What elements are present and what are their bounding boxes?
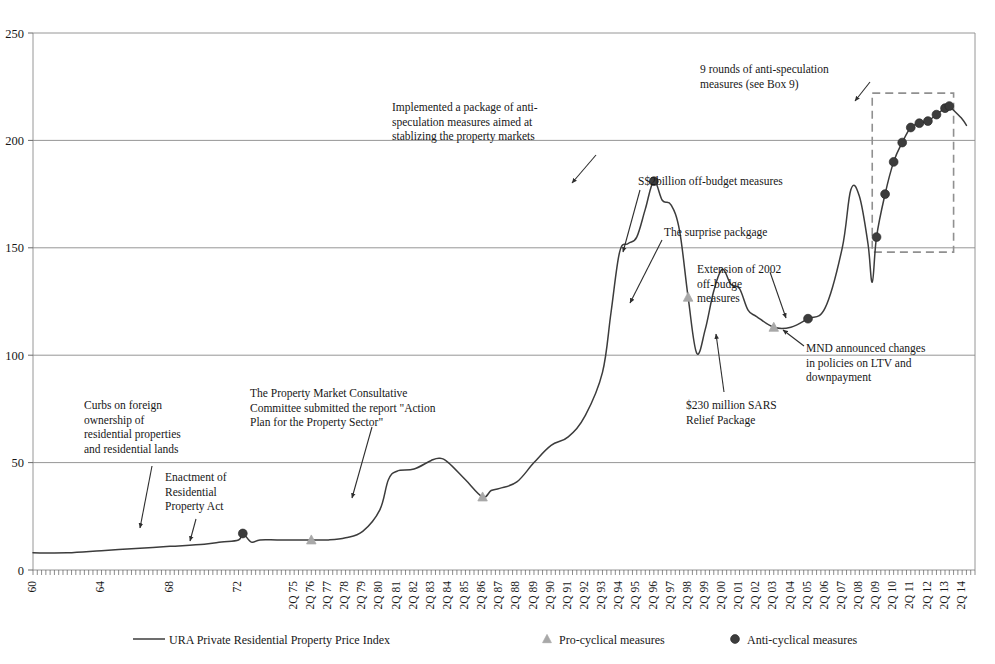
- anti-cyclical-marker: [238, 529, 247, 538]
- pro-cyclical-marker: [683, 292, 693, 301]
- annotation-enactment-residential-property-act: Enactment of Residential Property Act: [165, 470, 275, 514]
- x-axis-tick-label: 2Q 93: [595, 581, 607, 610]
- legend-anti-cyclical-symbol: [731, 635, 740, 644]
- x-axis-tick-label: 2Q 99: [698, 581, 710, 610]
- legend-pro-cyclical-symbol: [543, 634, 552, 642]
- annotation-extension-of-2002-off-budget-measures: Extension of 2002 off-budge measures: [697, 262, 817, 306]
- x-axis-tick-label: 2Q 98: [681, 581, 693, 610]
- anti-cyclical-marker: [889, 157, 898, 166]
- x-axis-tick-label: 2Q 79: [355, 581, 367, 610]
- annotation-9-rounds-anti-speculation-measures: 9 rounds of anti-speculation measures (s…: [700, 62, 900, 91]
- x-axis-tick-label: 68: [163, 581, 175, 593]
- x-axis-tick-label: 2Q 13: [938, 581, 950, 610]
- x-axis-tick-label: 2Q 81: [390, 581, 402, 610]
- anti-cyclical-marker: [804, 314, 813, 323]
- highlight-box-9-rounds: [872, 93, 953, 252]
- chart-legend: URA Private Residential Property Price I…: [133, 633, 858, 647]
- legend-pro-cyclical-label: Pro-cyclical measures: [559, 633, 665, 647]
- x-axis-tick-label: 2Q 14: [955, 581, 967, 610]
- x-axis-tick-label: 2Q 96: [647, 581, 659, 610]
- annotation-leader-line: [630, 240, 662, 303]
- y-axis-tick-label: 250: [5, 27, 24, 41]
- anti-cyclical-marker: [915, 119, 924, 128]
- annotation-leader-line: [783, 330, 804, 346]
- annotation-leader-line: [190, 519, 196, 541]
- x-axis-tick-label: 2Q 89: [527, 581, 539, 610]
- anti-cyclical-marker: [932, 110, 941, 119]
- x-axis-tick-label: 2Q 05: [801, 581, 813, 610]
- x-axis-tick-label: 2Q 87: [492, 581, 504, 610]
- x-axis-tick-label: 2Q 80: [372, 581, 384, 610]
- legend-anti-cyclical-label: Anti-cyclical measures: [747, 633, 858, 647]
- x-axis-tick-label: 2Q 91: [561, 581, 573, 610]
- anti-cyclical-marker: [881, 190, 890, 199]
- anti-cyclical-marker: [898, 138, 907, 147]
- annotation-mnd-announced-changes-ltv-downpayment: MND announced changes in policies on LTV…: [806, 341, 995, 385]
- x-axis-tick-label: 2Q 84: [441, 581, 453, 610]
- annotation-curbs-on-foreign-ownership: Curbs on foreign ownership of residentia…: [84, 398, 234, 457]
- x-axis-tick-label: 2Q 09: [869, 581, 881, 610]
- x-axis-tick-label: 2Q 90: [544, 581, 556, 610]
- x-axis-tick-label: 2Q 86: [475, 581, 487, 610]
- y-axis-tick-label: 200: [5, 134, 24, 148]
- x-axis-tick-label: 2Q 11: [903, 581, 915, 609]
- x-axis-tick-label: 60: [26, 581, 38, 593]
- anti-cyclical-marker: [872, 233, 881, 242]
- y-axis-tick-label: 100: [5, 349, 24, 363]
- annotation-ss2billion-off-budget-measures: S$2billion off-budget measures: [638, 174, 868, 189]
- x-axis-tick-label: 2Q 95: [629, 581, 641, 610]
- x-axis-tick-label: 2Q 75: [287, 581, 299, 610]
- x-axis-tick-label: 2Q 76: [304, 581, 316, 610]
- legend-line-price-index-label: URA Private Residential Property Price I…: [169, 633, 390, 647]
- x-axis-tick-label: 64: [94, 581, 106, 593]
- x-axis: 606468722Q 752Q 762Q 772Q 782Q 792Q 802Q…: [26, 570, 975, 609]
- x-axis-tick-label: 2Q 07: [835, 581, 847, 610]
- x-axis-tick-label: 2Q 83: [424, 581, 436, 610]
- annotation-leader-line: [140, 466, 152, 528]
- y-axis-tick-label: 150: [5, 241, 24, 255]
- x-axis-tick-label: 2Q 85: [458, 581, 470, 610]
- anti-cyclical-marker: [906, 123, 915, 132]
- x-axis-tick-label: 72: [231, 581, 243, 593]
- x-axis-tick-label: 2Q 02: [749, 581, 761, 610]
- chart-container: 050100150200250 606468722Q 752Q 762Q 772…: [0, 0, 995, 664]
- annotation-230-million-sars-relief-package: $230 million SARS Relief Package: [686, 398, 826, 427]
- annotation-implemented-anti-speculation-package: Implemented a package of anti- speculati…: [392, 100, 610, 144]
- annotation-property-market-consultative-committee: The Property Market Consultative Committ…: [250, 386, 500, 430]
- x-axis-tick-label: 2Q 82: [407, 581, 419, 610]
- annotation-leader-line: [572, 155, 596, 183]
- anti-cyclical-marker: [945, 102, 954, 111]
- y-axis-tick-label: 50: [12, 456, 25, 470]
- y-axis-tick-label: 0: [18, 564, 24, 578]
- x-axis-tick-label: 2Q 94: [612, 581, 624, 610]
- x-axis-tick-label: 2Q 88: [509, 581, 521, 610]
- x-axis-tick-label: 2Q 12: [921, 581, 933, 610]
- x-axis-tick-label: 2Q 08: [852, 581, 864, 610]
- x-axis-tick-label: 2Q 92: [578, 581, 590, 610]
- pro-cyclical-marker: [769, 322, 779, 331]
- annotation-leader-line: [716, 334, 724, 392]
- y-axis: 050100150200250: [5, 27, 33, 578]
- x-axis-tick-label: 2Q 10: [886, 581, 898, 610]
- x-axis-tick-label: 2Q 00: [715, 581, 727, 610]
- x-axis-tick-label: 2Q 03: [766, 581, 778, 610]
- x-axis-tick-label: 2Q 77: [321, 581, 333, 610]
- annotation-the-surprise-package: The surprise packgage: [664, 225, 844, 240]
- x-axis-tick-label: 2Q 97: [664, 581, 676, 610]
- measure-markers: [238, 102, 953, 544]
- annotation-leader-line: [623, 190, 640, 252]
- x-axis-tick-label: 2Q 78: [338, 581, 350, 610]
- anti-cyclical-marker: [924, 117, 933, 126]
- x-axis-tick-label: 2Q 04: [784, 581, 796, 610]
- x-axis-tick-label: 2Q 01: [732, 581, 744, 610]
- x-axis-tick-label: 2Q 06: [818, 581, 830, 610]
